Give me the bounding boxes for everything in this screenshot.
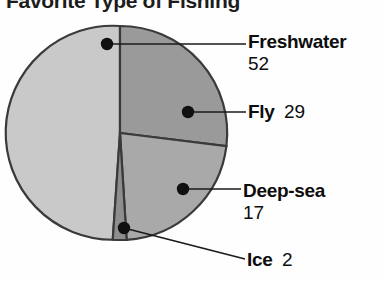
pie-label-freshwater-name: Freshwater (248, 31, 346, 52)
pie-label-fly-value: 29 (284, 101, 305, 122)
pie-label-fly: Fly 29 (248, 101, 305, 122)
leader-dot-deepsea (177, 183, 189, 195)
leader-dot-freshwater (101, 38, 113, 50)
pie-label-deepsea: Deep-sea 17 (243, 180, 325, 224)
pie-label-ice-value: 2 (282, 249, 293, 270)
pie-label-freshwater: Freshwater 52 (248, 31, 346, 75)
pie-label-deepsea-name: Deep-sea (243, 180, 325, 201)
pie-slice-deepsea[interactable] (120, 133, 226, 240)
leader-dot-ice (118, 222, 130, 234)
pie-chart-figure: Favorite Type of Fishing (0, 0, 383, 281)
pie-slice-freshwater[interactable] (6, 26, 120, 240)
pie-label-freshwater-value: 52 (248, 53, 346, 74)
pie-label-ice: Ice 2 (247, 249, 293, 270)
pie-label-fly-name: Fly (248, 101, 275, 122)
pie-label-deepsea-value: 17 (243, 202, 325, 223)
pie-label-ice-name: Ice (247, 249, 273, 270)
leader-dot-fly (182, 106, 194, 118)
